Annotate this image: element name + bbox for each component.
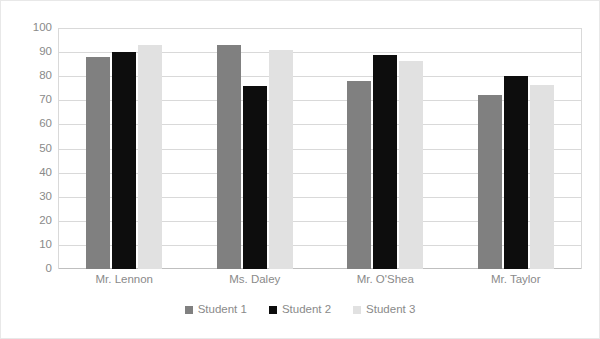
bar-group xyxy=(190,28,321,269)
legend-swatch-icon xyxy=(269,306,277,314)
bar[interactable] xyxy=(478,95,502,269)
bar[interactable] xyxy=(530,85,554,269)
chart-legend: Student 1Student 2Student 3 xyxy=(1,304,599,316)
bar[interactable] xyxy=(347,81,371,269)
bar[interactable] xyxy=(399,61,423,269)
legend-swatch-icon xyxy=(185,306,193,314)
y-axis-tick-label: 10 xyxy=(6,239,52,251)
bar[interactable] xyxy=(112,52,136,269)
legend-item[interactable]: Student 3 xyxy=(353,304,415,316)
legend-label: Student 1 xyxy=(198,304,247,316)
y-axis-tick-label: 30 xyxy=(6,191,52,203)
x-axis-category-label: Mr. Lennon xyxy=(59,273,190,293)
bar[interactable] xyxy=(269,50,293,269)
x-axis-labels: Mr. LennonMs. DaleyMr. O'SheaMr. Taylor xyxy=(59,273,581,293)
legend-label: Student 3 xyxy=(366,304,415,316)
y-axis-tick-label: 80 xyxy=(6,70,52,82)
x-axis-category-label: Mr. Taylor xyxy=(451,273,582,293)
legend-item[interactable]: Student 2 xyxy=(269,304,331,316)
y-axis-tick-label: 60 xyxy=(6,119,52,131)
legend-swatch-icon xyxy=(353,306,361,314)
legend-label: Student 2 xyxy=(282,304,331,316)
bar-groups xyxy=(59,28,581,269)
y-axis-tick-label: 40 xyxy=(6,167,52,179)
y-axis-tick-label: 0 xyxy=(6,263,52,275)
y-axis-tick-label: 100 xyxy=(6,22,52,34)
y-axis-tick-label: 70 xyxy=(6,95,52,107)
bar-group xyxy=(320,28,451,269)
x-axis-category-label: Ms. Daley xyxy=(190,273,321,293)
bar[interactable] xyxy=(243,86,267,269)
bar[interactable] xyxy=(138,45,162,269)
y-axis-tick-label: 90 xyxy=(6,46,52,58)
y-axis-tick-label: 50 xyxy=(6,143,52,155)
bar-group xyxy=(59,28,190,269)
bar[interactable] xyxy=(86,57,110,269)
bar-group xyxy=(451,28,582,269)
bar-chart: 1009080706050403020100 Mr. LennonMs. Dal… xyxy=(0,0,600,339)
bar[interactable] xyxy=(217,45,241,269)
legend-item[interactable]: Student 1 xyxy=(185,304,247,316)
bar[interactable] xyxy=(504,76,528,269)
bar[interactable] xyxy=(373,55,397,269)
y-axis-tick-label: 20 xyxy=(6,215,52,227)
y-axis: 1009080706050403020100 xyxy=(1,28,52,269)
x-axis-category-label: Mr. O'Shea xyxy=(320,273,451,293)
